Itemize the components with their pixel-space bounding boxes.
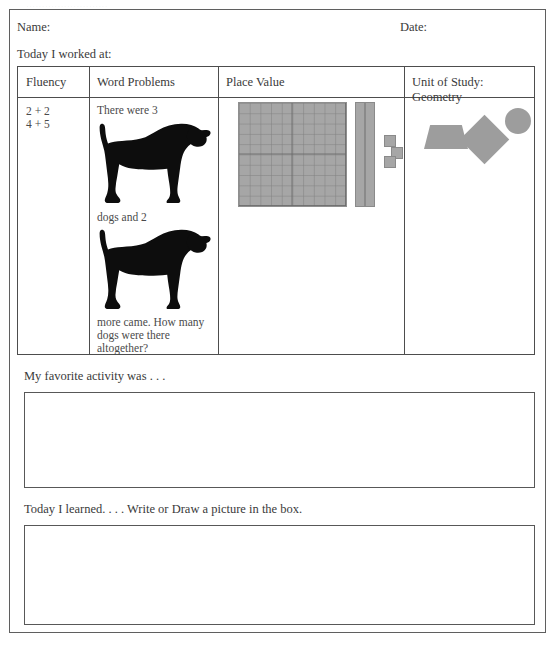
word-problem-line-1: There were 3 — [97, 104, 213, 117]
reflection-prompt-1: My favorite activity was . . . — [24, 368, 165, 384]
word-problem-line-3: more came. How many dogs were there alto… — [97, 316, 213, 355]
geometry-shapes — [405, 98, 534, 354]
column-header-word-problems: Word Problems — [97, 75, 175, 90]
answer-box-2[interactable] — [24, 525, 535, 625]
worksheet-table: Fluency Word Problems Place Value Unit o… — [17, 66, 535, 355]
tens-rod-block-icon — [355, 102, 365, 207]
hundreds-flat-block-icon — [238, 102, 347, 207]
cell-word-problems: There were 3 dogs and 2 more came. How m… — [90, 98, 218, 354]
answer-box-1[interactable] — [24, 392, 535, 488]
base-ten-blocks — [219, 98, 404, 354]
column-header-fluency: Fluency — [26, 75, 66, 90]
cell-unit-of-study — [405, 98, 534, 354]
column-header-place-value: Place Value — [226, 75, 284, 90]
scan-artifact: .......................... — [26, 0, 276, 7]
name-label: Name: — [17, 19, 50, 35]
worked-at-label: Today I worked at: — [17, 46, 112, 62]
circle-shape-icon — [505, 108, 531, 134]
ones-cube-block-icon — [384, 156, 396, 168]
cell-fluency: 2 + 2 4 + 5 — [18, 98, 89, 354]
name-date-row: Name: Date: — [17, 19, 535, 35]
fluency-problems: 2 + 2 4 + 5 — [26, 105, 50, 131]
word-problem-line-2: dogs and 2 — [97, 211, 213, 224]
diamond-shape-icon — [460, 115, 509, 164]
cell-place-value — [219, 98, 404, 354]
tens-rod-block-icon — [365, 102, 375, 207]
dog-silhouette-icon — [94, 120, 212, 206]
dog-silhouette-icon — [94, 226, 212, 312]
ones-cube-block-icon — [384, 135, 396, 147]
date-label: Date: — [400, 19, 427, 35]
reflection-prompt-2: Today I learned. . . . Write or Draw a p… — [24, 501, 302, 517]
